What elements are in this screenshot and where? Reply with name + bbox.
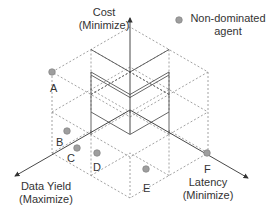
point-label-d: D: [93, 161, 101, 173]
cost-axis-label: Cost (Minimize): [77, 6, 131, 32]
cost-axis-label-line1: Cost: [77, 6, 131, 19]
data-yield-axis-label: Data Yield (Maximize): [16, 180, 76, 206]
point-label-f: F: [204, 163, 211, 175]
point-a: [49, 69, 56, 76]
latency-axis-label: Latency (Minimize): [178, 176, 238, 202]
data-yield-axis-label-line2: (Maximize): [16, 193, 76, 206]
legend-label: Non-dominated agent: [186, 12, 270, 38]
legend-label-line2: agent: [186, 25, 270, 38]
point-label-b: B: [56, 136, 63, 148]
point-d: [94, 150, 101, 157]
point-label-a: A: [50, 82, 57, 94]
data-yield-axis-label-line1: Data Yield: [16, 180, 76, 193]
point-f: [204, 150, 211, 157]
axes: [15, 18, 248, 178]
point-label-c: C: [67, 152, 75, 164]
legend-marker-icon: [176, 17, 183, 24]
data-yield-axis: [15, 110, 130, 176]
latency-axis-label-line2: (Minimize): [178, 189, 238, 202]
cost-axis-label-line2: (Minimize): [77, 19, 131, 32]
point-label-e: E: [143, 182, 150, 194]
point-c: [74, 145, 81, 152]
point-e: [143, 166, 150, 173]
point-b: [64, 128, 71, 135]
legend-label-line1: Non-dominated: [186, 12, 270, 25]
latency-axis-label-line1: Latency: [178, 176, 238, 189]
